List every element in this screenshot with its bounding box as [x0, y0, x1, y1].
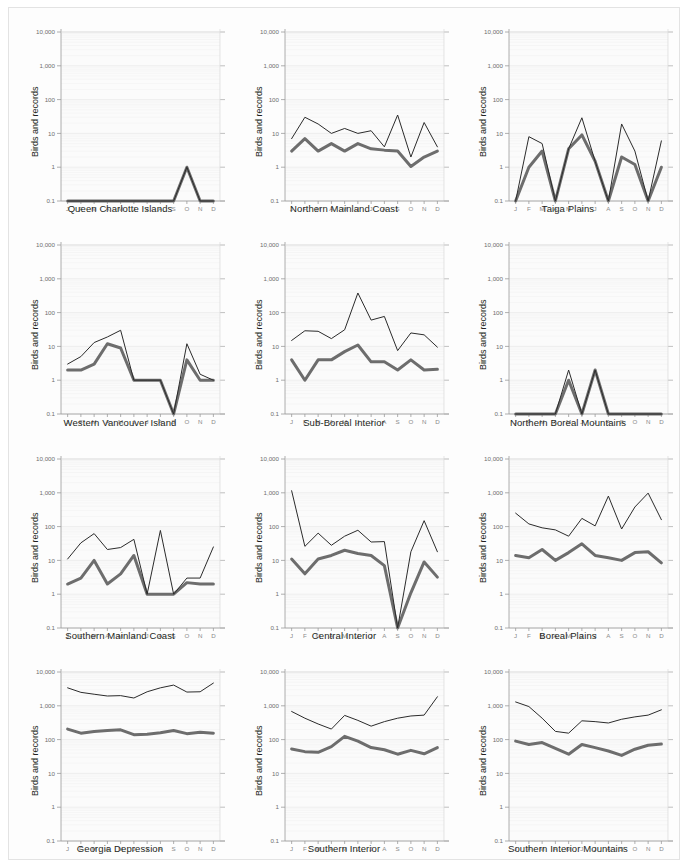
y-tick-label: 1: [500, 590, 504, 597]
plot-background: [509, 32, 668, 201]
y-tick-label: 10,000: [484, 455, 503, 462]
chart-panel: 10,0001,0001001010.1JFMAMJJASONDBirds an…: [8, 220, 232, 433]
y-axis-title: Birds and records: [478, 86, 488, 157]
y-tick-label: 10,000: [484, 241, 503, 248]
y-tick-label: 100: [269, 96, 280, 103]
y-axis-title: Birds and records: [30, 726, 40, 797]
chart-panel: 10,0001,0001001010.1JFMAMJJASONDBirds an…: [456, 647, 680, 860]
chart-panel: 10,0001,0001001010.1JFMAMJJASONDBirds an…: [456, 434, 680, 647]
y-tick-label: 100: [269, 522, 280, 529]
y-tick-label: 1,000: [488, 275, 504, 282]
y-tick-label: 10,000: [260, 455, 279, 462]
panel-plot: 10,0001,0001001010.1JFMAMJJASOND: [456, 220, 680, 433]
panel-plot: 10,0001,0001001010.1JFMAMJJASOND: [456, 434, 680, 647]
chart-panel: 10,0001,0001001010.1JFMAMJJASONDBirds an…: [8, 7, 232, 220]
y-tick-label: 10: [48, 769, 55, 776]
y-tick-label: 1: [276, 590, 280, 597]
y-tick-label: 10: [272, 556, 279, 563]
y-tick-label: 1: [276, 803, 280, 810]
y-tick-label: 1,000: [40, 62, 56, 69]
chart-panel: 10,0001,0001001010.1JFMAMJJASONDBirds an…: [8, 434, 232, 647]
y-axis-title: Birds and records: [30, 512, 40, 583]
y-tick-label: 1,000: [264, 275, 280, 282]
plot-background: [61, 32, 220, 201]
y-axis-title: Birds and records: [30, 299, 40, 370]
panel-caption: Southern Interior Mountains: [456, 843, 680, 854]
plot-background: [285, 245, 444, 414]
y-axis-title: Birds and records: [478, 512, 488, 583]
panel-plot: 10,0001,0001001010.1JFMAMJJASOND: [8, 7, 232, 220]
y-tick-label: 1,000: [40, 489, 56, 496]
y-axis-title: Birds and records: [254, 512, 264, 583]
y-tick-label: 10: [48, 556, 55, 563]
y-tick-label: 10,000: [484, 668, 503, 675]
panel-plot: 10,0001,0001001010.1JFMAMJJASOND: [8, 434, 232, 647]
y-tick-label: 1: [276, 377, 280, 384]
y-tick-label: 1,000: [488, 702, 504, 709]
y-tick-label: 10,000: [36, 241, 55, 248]
y-tick-label: 1: [52, 803, 56, 810]
y-tick-label: 1: [500, 163, 504, 170]
figure-page: 10,0001,0001001010.1JFMAMJJASONDBirds an…: [0, 0, 688, 867]
panel-caption: Southern Interior: [232, 843, 456, 854]
y-tick-label: 10,000: [260, 241, 279, 248]
plot-background: [61, 459, 220, 628]
y-tick-label: 10: [496, 343, 503, 350]
chart-panel: 10,0001,0001001010.1JFMAMJJASONDBirds an…: [232, 220, 456, 433]
panel-plot: 10,0001,0001001010.1JFMAMJJASOND: [8, 220, 232, 433]
chart-panel: 10,0001,0001001010.1JFMAMJJASONDBirds an…: [232, 647, 456, 860]
chart-panel: 10,0001,0001001010.1JFMAMJJASONDBirds an…: [456, 220, 680, 433]
panel-plot: 10,0001,0001001010.1JFMAMJJASOND: [232, 647, 456, 860]
y-axis-title: Birds and records: [254, 86, 264, 157]
y-tick-label: 100: [45, 309, 56, 316]
y-tick-label: 10: [496, 130, 503, 137]
plot-background: [61, 245, 220, 414]
y-tick-label: 10: [48, 130, 55, 137]
panel-plot: 10,0001,0001001010.1JFMAMJJASOND: [456, 647, 680, 860]
panel-plot: 10,0001,0001001010.1JFMAMJJASOND: [232, 220, 456, 433]
y-tick-label: 10,000: [36, 668, 55, 675]
y-tick-label: 1: [500, 377, 504, 384]
y-axis-title: Birds and records: [254, 299, 264, 370]
panel-grid: 10,0001,0001001010.1JFMAMJJASONDBirds an…: [8, 7, 680, 860]
chart-panel: 10,0001,0001001010.1JFMAMJJASONDBirds an…: [232, 434, 456, 647]
panel-plot: 10,0001,0001001010.1JFMAMJJASOND: [232, 434, 456, 647]
panel-caption: Central Interior: [232, 630, 456, 641]
y-tick-label: 1,000: [488, 489, 504, 496]
y-tick-label: 10,000: [260, 28, 279, 35]
y-tick-label: 1: [52, 590, 56, 597]
y-tick-label: 100: [493, 96, 504, 103]
plot-background: [285, 32, 444, 201]
y-tick-label: 1,000: [264, 489, 280, 496]
y-tick-label: 1,000: [488, 62, 504, 69]
panel-caption: Taiga Plains: [456, 203, 680, 214]
chart-panel: 10,0001,0001001010.1JFMAMJJASONDBirds an…: [456, 7, 680, 220]
plot-background: [285, 672, 444, 841]
y-tick-label: 1: [52, 377, 56, 384]
y-tick-label: 1: [500, 803, 504, 810]
y-tick-label: 100: [45, 522, 56, 529]
y-tick-label: 1: [276, 163, 280, 170]
y-tick-label: 100: [45, 736, 56, 743]
y-axis-title: Birds and records: [478, 299, 488, 370]
chart-panel: 10,0001,0001001010.1JFMAMJJASONDBirds an…: [232, 7, 456, 220]
y-axis-title: Birds and records: [30, 86, 40, 157]
y-tick-label: 1,000: [40, 275, 56, 282]
y-tick-label: 10: [48, 343, 55, 350]
y-tick-label: 100: [269, 736, 280, 743]
y-tick-label: 100: [45, 96, 56, 103]
panel-caption: Georgia Depression: [8, 843, 232, 854]
plot-background: [61, 672, 220, 841]
y-tick-label: 100: [493, 309, 504, 316]
y-tick-label: 1,000: [40, 702, 56, 709]
y-tick-label: 10: [272, 130, 279, 137]
panel-caption: Boreal Plains: [456, 630, 680, 641]
plot-background: [285, 459, 444, 628]
y-tick-label: 10,000: [260, 668, 279, 675]
y-tick-label: 1,000: [264, 62, 280, 69]
chart-panel: 10,0001,0001001010.1JFMAMJJASONDBirds an…: [8, 647, 232, 860]
plot-background: [509, 459, 668, 628]
y-axis-title: Birds and records: [254, 726, 264, 797]
y-tick-label: 10: [272, 769, 279, 776]
panel-caption: Queen Charlotte Islands: [8, 203, 232, 214]
